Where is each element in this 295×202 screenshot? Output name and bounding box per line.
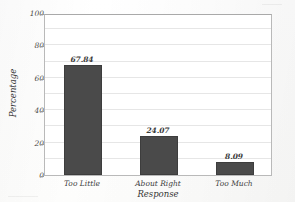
bar-value-label: 24.07 xyxy=(133,126,183,135)
y-axis-title: Percentage xyxy=(8,48,18,138)
bar xyxy=(216,162,254,175)
scan-speckle xyxy=(8,196,38,197)
x-axis-title: Response xyxy=(44,189,272,199)
y-tick-mark xyxy=(40,176,44,177)
bar xyxy=(140,136,178,175)
chart-screenshot: 020406080100 Percentage 67.8424.078.09 T… xyxy=(0,0,295,202)
scan-speckle xyxy=(262,4,282,5)
gridline xyxy=(45,44,271,45)
gridline xyxy=(45,28,271,29)
x-tick-label: Too Much xyxy=(194,179,274,188)
x-tick-label: About Right xyxy=(118,179,198,188)
chart-title xyxy=(0,0,295,3)
bar-value-label: 67.84 xyxy=(57,55,107,64)
bar-value-label: 8.09 xyxy=(209,152,259,161)
bar xyxy=(64,65,102,175)
x-tick-label: Too Little xyxy=(42,179,122,188)
